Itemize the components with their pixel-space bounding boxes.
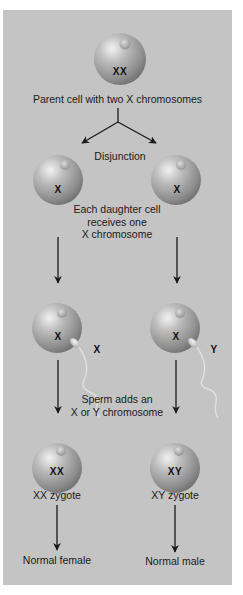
daughter-caption-line-2: receives one: [57, 216, 177, 229]
daughter-left-chromosome-label: X: [48, 184, 68, 195]
diagram-graphics: [0, 0, 243, 595]
xy-zygote-label: XY zygote: [135, 489, 215, 502]
normal-female-label: Normal female: [7, 554, 107, 567]
arrows-to-fertilization: [58, 237, 177, 283]
disjunction-branch-arrows: [82, 108, 156, 143]
egg-right-chromosome-label: X: [166, 331, 186, 342]
arrows-to-outcomes: [57, 505, 175, 552]
daughter-caption-line-3: X chromosome: [57, 228, 177, 241]
daughter-caption: Each daughter cell receives one X chromo…: [57, 203, 177, 241]
parent-cell: [94, 33, 146, 85]
sperm-caption-line-1: Sperm adds an: [57, 393, 177, 406]
sperm-caption-line-2: X or Y chromosome: [57, 406, 177, 419]
normal-male-label: Normal male: [125, 555, 225, 568]
sperm-caption: Sperm adds an X or Y chromosome: [57, 393, 177, 418]
daughter-cell-right: [151, 155, 201, 205]
daughter-right-chromosome-label: X: [167, 184, 187, 195]
egg-left-chromosome-label: X: [48, 331, 68, 342]
daughter-caption-line-1: Each daughter cell: [57, 203, 177, 216]
sperm-right-chromosome-label: Y: [204, 344, 224, 355]
zygote-right-chromosome-label: XY: [160, 466, 190, 477]
parent-chromosome-label: XX: [105, 66, 135, 77]
disjunction-label: Disjunction: [70, 150, 170, 163]
zygote-left-chromosome-label: XX: [42, 466, 72, 477]
daughter-cell-left: [33, 155, 83, 205]
parent-caption: Parent cell with two X chromosomes: [3, 93, 232, 106]
xx-zygote-label: XX zygote: [17, 489, 97, 502]
sperm-left-chromosome-label: X: [87, 344, 107, 355]
